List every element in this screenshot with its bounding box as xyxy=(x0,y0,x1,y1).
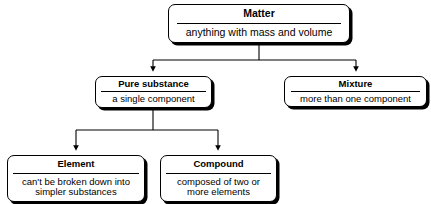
node-compound-body: composed of two or more elements xyxy=(161,174,276,198)
node-element-body-line2: simpler substances xyxy=(8,187,144,198)
edge-pure-substance-to-children xyxy=(76,110,218,148)
node-matter[interactable]: Matter anything with mass and volume xyxy=(168,4,350,43)
node-compound[interactable]: Compound composed of two or more element… xyxy=(160,155,277,202)
node-compound-title: Compound xyxy=(161,159,276,171)
node-matter-body: anything with mass and volume xyxy=(169,24,349,39)
edge-matter-to-children xyxy=(153,45,356,69)
node-pure-substance[interactable]: Pure substance a single component xyxy=(95,76,212,108)
node-mixture-title: Mixture xyxy=(285,79,426,90)
node-mixture[interactable]: Mixture more than one component xyxy=(284,76,427,107)
node-mixture-body: more than one component xyxy=(285,92,426,105)
node-compound-body-line2: more elements xyxy=(161,187,276,198)
node-element-body: can't be broken down into simpler substa… xyxy=(8,174,144,198)
node-matter-title: Matter xyxy=(169,8,349,21)
matter-classification-diagram: Matter anything with mass and volume Pur… xyxy=(0,0,431,204)
node-pure-substance-title: Pure substance xyxy=(96,79,211,90)
node-pure-substance-body: a single component xyxy=(96,92,211,105)
node-element[interactable]: Element can't be broken down into simple… xyxy=(7,155,145,202)
node-element-title: Element xyxy=(8,159,144,171)
